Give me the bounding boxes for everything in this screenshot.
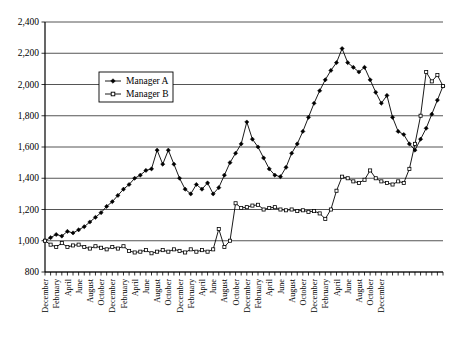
data-point-marker — [385, 181, 388, 184]
x-axis-tick-label: August — [355, 278, 364, 302]
data-point-marker — [296, 210, 299, 213]
x-axis-tick-label: February — [321, 278, 330, 308]
data-point-marker — [206, 250, 209, 253]
data-point-marker — [184, 251, 187, 254]
data-point-marker — [335, 189, 338, 192]
x-axis-tick-label: October — [164, 279, 173, 306]
data-point-marker — [144, 249, 147, 252]
data-point-marker — [396, 129, 400, 133]
x-axis-tick-label: December — [41, 279, 50, 313]
x-axis-tick-labels: DecemberFebruaryAprilJuneAugustOctoberDe… — [41, 278, 386, 313]
x-axis-tick-label: December — [108, 279, 117, 313]
x-axis-tick-label: October — [97, 279, 106, 306]
data-point-marker — [256, 203, 259, 206]
data-point-marker — [178, 249, 181, 252]
data-point-marker — [240, 206, 243, 209]
data-point-marker — [161, 162, 165, 166]
y-axis-tick-label: 2,400 — [18, 17, 40, 27]
data-point-marker — [149, 167, 153, 171]
data-point-marker — [413, 142, 416, 145]
data-point-marker — [262, 208, 265, 211]
x-axis-tick-label: August — [288, 278, 297, 302]
data-point-marker — [368, 78, 372, 82]
data-point-marker — [436, 74, 439, 77]
chart-legend: Manager AManager B — [99, 72, 173, 102]
data-point-marker — [424, 126, 428, 130]
data-point-marker — [77, 228, 81, 232]
y-axis-tick-label: 1,800 — [18, 111, 40, 121]
data-point-marker — [166, 148, 170, 152]
data-point-marker — [441, 85, 444, 88]
x-axis-tick-label: April — [131, 278, 140, 296]
data-point-marker — [100, 246, 103, 249]
data-point-marker — [200, 249, 203, 252]
data-point-marker — [418, 137, 422, 141]
data-point-marker — [312, 101, 316, 105]
x-axis-tick-label: June — [209, 279, 218, 294]
data-point-marker — [402, 132, 406, 136]
data-point-marker — [105, 248, 108, 251]
data-point-marker — [139, 250, 142, 253]
data-point-marker — [374, 177, 377, 180]
data-point-marker — [419, 114, 422, 117]
data-point-marker — [71, 244, 74, 247]
data-point-marker — [329, 208, 332, 211]
data-point-marker — [55, 245, 58, 248]
data-point-marker — [195, 250, 198, 253]
data-point-marker — [340, 46, 344, 50]
x-axis-tick-label: June — [142, 279, 151, 294]
data-point-marker — [262, 156, 266, 160]
chart-canvas: 8001,0001,2001,4001,6001,8002,0002,2002,… — [0, 0, 452, 340]
data-point-marker — [128, 249, 131, 252]
gridlines-group — [45, 22, 443, 272]
y-axis-tick-label: 1,400 — [18, 173, 40, 183]
data-point-marker — [301, 209, 304, 212]
x-axis-tick-label: April — [198, 278, 207, 296]
data-point-marker — [189, 248, 192, 251]
data-point-marker — [290, 208, 293, 211]
data-point-marker — [301, 129, 305, 133]
data-point-marker — [284, 165, 288, 169]
data-point-marker — [318, 89, 322, 93]
data-point-marker — [88, 247, 91, 250]
data-point-marker — [408, 167, 411, 170]
x-axis-tick-label: June — [277, 279, 286, 294]
data-point-marker — [245, 206, 248, 209]
data-point-marker — [234, 202, 237, 205]
data-point-marker — [307, 210, 310, 213]
data-point-marker — [155, 148, 159, 152]
x-axis-tick-label: August — [153, 278, 162, 302]
data-point-marker — [323, 78, 327, 82]
data-point-marker — [397, 180, 400, 183]
data-point-marker — [83, 245, 86, 248]
data-point-marker — [268, 206, 271, 209]
data-point-marker — [324, 217, 327, 220]
x-axis-tick-label: August — [86, 278, 95, 302]
data-point-marker — [116, 247, 119, 250]
x-axis-tick-label: April — [64, 278, 73, 296]
data-point-marker — [352, 180, 355, 183]
x-axis-tick-label: October — [366, 279, 375, 306]
data-point-marker — [251, 204, 254, 207]
x-axis-tick-label: February — [254, 278, 263, 308]
x-axis-tick-label: October — [232, 279, 241, 306]
data-point-marker — [49, 236, 53, 240]
x-axis-tick-label: August — [220, 278, 229, 302]
data-point-marker — [435, 98, 439, 102]
data-point-marker — [357, 181, 360, 184]
data-point-marker — [217, 227, 220, 230]
data-point-marker — [167, 250, 170, 253]
data-point-marker — [228, 239, 231, 242]
data-point-marker — [284, 209, 287, 212]
data-point-marker — [161, 249, 164, 252]
x-axis-tick-label: December — [243, 279, 252, 313]
data-point-marker — [295, 142, 299, 146]
data-point-marker — [94, 245, 97, 248]
data-point-marker — [363, 178, 366, 181]
data-point-marker — [43, 239, 46, 242]
x-axis-tick-label: June — [344, 279, 353, 294]
data-point-marker — [71, 231, 75, 235]
data-point-marker — [133, 251, 136, 254]
y-axis-tick-label: 2,200 — [18, 48, 40, 58]
x-axis-tick-label: June — [75, 279, 84, 294]
